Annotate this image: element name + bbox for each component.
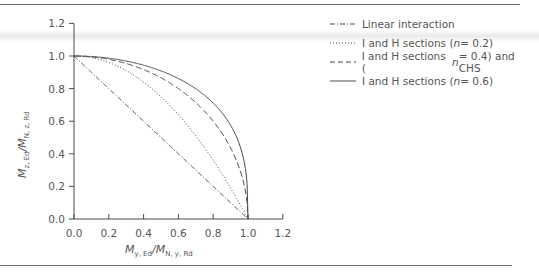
- legend-item-linear: Linear interaction: [330, 14, 539, 33]
- y-tick-label: 1.2: [48, 17, 65, 29]
- solid-line-icon: [330, 78, 356, 84]
- y-tick-label: 0.6: [48, 115, 65, 127]
- x-tick-label: 0.6: [170, 227, 187, 239]
- x-tick-label: 0.4: [135, 227, 152, 239]
- x-tick-label: 0.0: [66, 227, 83, 239]
- y-tick-label: 0.2: [48, 180, 65, 192]
- x-axis-label: My, Ed/MN, y, Rd: [125, 243, 193, 258]
- y-tick-label: 0.4: [48, 148, 65, 160]
- y-tick-label: 0.8: [48, 83, 65, 95]
- legend-item-n04: I and H sections (n = 0.4) and CHS: [330, 52, 539, 71]
- x-tick-label: 1.0: [240, 227, 257, 239]
- y-axis-label: Mz, Ed/MN, z, Rd: [16, 111, 31, 178]
- x-tick-label: 1.2: [274, 227, 291, 239]
- y-tick-label: 1.0: [48, 50, 65, 62]
- legend-item-n06: I and H sections (n = 0.6): [330, 71, 539, 90]
- x-tick-label: 0.2: [100, 227, 117, 239]
- legend: Linear interaction I and H sections (n =…: [330, 14, 539, 90]
- dashed-line-icon: [330, 59, 356, 65]
- x-tick-label: 0.8: [205, 227, 222, 239]
- dotted-line-icon: [330, 40, 356, 46]
- dash-dot-line-icon: [330, 21, 356, 27]
- y-tick-label: 0.0: [48, 213, 65, 225]
- curve-dash-dot: [74, 56, 248, 219]
